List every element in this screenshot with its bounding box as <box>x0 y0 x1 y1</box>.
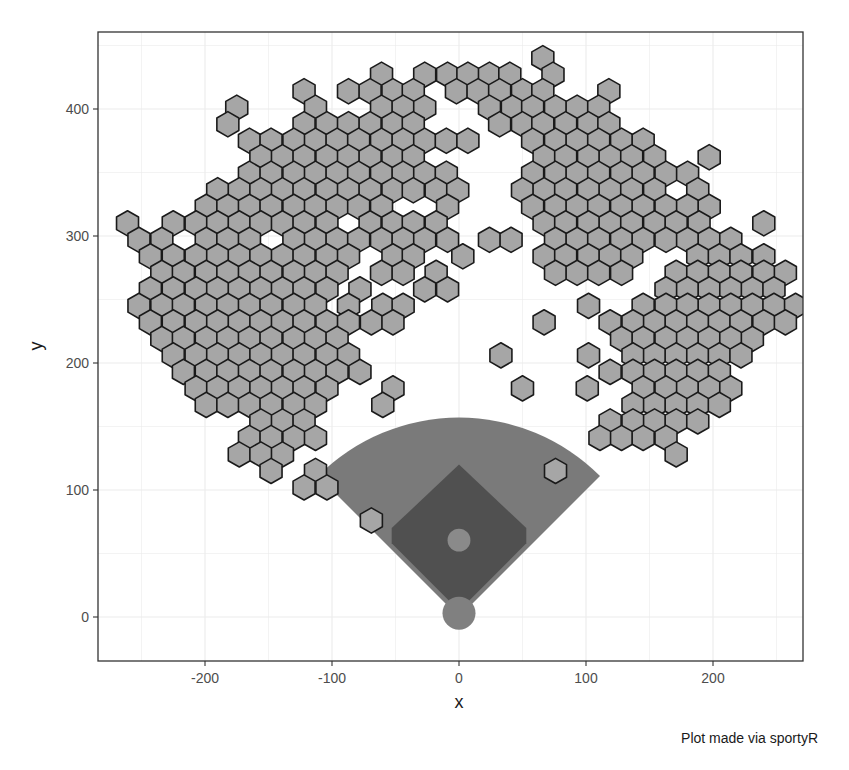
home-plate-circle <box>442 597 475 630</box>
hex-bin <box>217 112 239 137</box>
hex-bin <box>611 425 633 450</box>
hex-bin <box>437 277 459 302</box>
hex-bin <box>730 343 752 368</box>
hex-bin <box>217 392 239 417</box>
x-axis: -200-1000100200 <box>191 661 725 686</box>
hex-bin <box>304 425 326 450</box>
hex-bin <box>566 260 588 285</box>
y-tick-label: 400 <box>66 101 90 117</box>
hex-bin <box>392 260 414 285</box>
hex-bin <box>372 392 394 417</box>
caption: Plot made via sportyR <box>681 730 818 746</box>
hex-bin <box>576 376 598 401</box>
hex-bin <box>599 359 621 384</box>
hex-bin <box>445 79 467 104</box>
hex-bin <box>588 260 610 285</box>
hex-bin <box>665 442 687 467</box>
hex-bin <box>452 244 474 269</box>
hex-bin <box>316 475 338 500</box>
hex-bin <box>698 145 720 170</box>
hex-bin <box>360 310 382 335</box>
y-axis: 0100200300400 <box>66 101 98 625</box>
hex-bin <box>545 458 567 483</box>
hex-bin <box>500 227 522 252</box>
hex-bin <box>435 128 457 153</box>
hex-bin <box>228 442 250 467</box>
hex-bin <box>360 508 382 533</box>
hex-bin <box>533 310 555 335</box>
x-tick-label: 0 <box>455 670 463 686</box>
x-tick-label: -200 <box>191 670 219 686</box>
hex-bin <box>774 310 796 335</box>
pitchers-mound <box>448 529 471 552</box>
x-tick-label: -100 <box>318 670 346 686</box>
hex-bin <box>371 260 393 285</box>
hex-bin <box>708 392 730 417</box>
hex-bin <box>260 458 282 483</box>
hex-bin <box>545 260 567 285</box>
hex-bin <box>402 178 424 203</box>
y-tick-label: 300 <box>66 228 90 244</box>
x-tick-label: 200 <box>701 670 725 686</box>
hex-bin <box>611 260 633 285</box>
hex-bin <box>489 112 511 137</box>
hex-bin <box>338 79 360 104</box>
hex-bin <box>655 227 677 252</box>
hex-bin <box>414 277 436 302</box>
y-tick-label: 0 <box>81 609 89 625</box>
hex-bin <box>457 128 479 153</box>
hex-bin <box>578 343 600 368</box>
x-tick-label: 100 <box>574 670 598 686</box>
hex-bin <box>195 392 217 417</box>
hex-bin <box>687 409 709 434</box>
y-axis-title: y <box>26 342 46 351</box>
hex-bin <box>589 425 611 450</box>
hex-bin <box>349 359 371 384</box>
y-tick-label: 100 <box>66 482 90 498</box>
hex-bin <box>753 211 775 236</box>
hex-bin <box>382 310 404 335</box>
hex-bin <box>512 376 534 401</box>
hex-bin <box>293 475 315 500</box>
hex-bin <box>578 293 600 318</box>
hex-bin <box>632 425 654 450</box>
hex-bin <box>490 343 512 368</box>
x-axis-title: x <box>455 692 464 712</box>
hexbin-chart: -200-1000100200 0100200300400 x y Plot m… <box>0 0 849 770</box>
hex-bin <box>478 227 500 252</box>
y-tick-label: 200 <box>66 355 90 371</box>
